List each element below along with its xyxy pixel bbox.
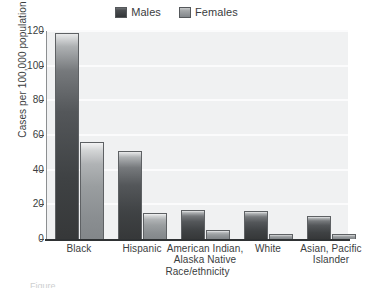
y-axis-tick-mark [40, 204, 44, 205]
bar-group-container [47, 31, 348, 239]
x-axis-line [45, 239, 350, 241]
plot-area [47, 31, 348, 239]
x-axis-tick-label-line: Alaska Native [166, 254, 244, 265]
x-axis-title: Race/ethnicity [47, 266, 348, 277]
legend-label-males: Males [131, 6, 161, 18]
x-axis-tick-label: Asian, PacificIslander [292, 243, 366, 265]
cropped-caption-remnant: Figure [30, 281, 76, 288]
y-axis-tick-mark [40, 31, 44, 32]
chart-legend: Males Females [0, 4, 353, 20]
y-axis-tick-mark [40, 66, 44, 67]
x-axis-tick-label-line: Islander [292, 254, 366, 265]
legend-item-males: Males [115, 6, 161, 18]
bar-males [181, 210, 205, 239]
bar-females [143, 213, 167, 239]
y-axis-tick-mark [40, 100, 44, 101]
x-axis-tick-label-line: Asian, Pacific [292, 243, 366, 254]
bar-males [118, 151, 142, 239]
bar-males [244, 211, 268, 239]
legend-item-females: Females [179, 6, 238, 18]
legend-swatch-females-icon [179, 7, 191, 18]
legend-label-females: Females [195, 6, 238, 18]
legend-swatch-males-icon [115, 7, 127, 18]
y-axis-tick-mark [40, 170, 44, 171]
y-axis-tick-mark [40, 135, 44, 136]
bar-females [206, 230, 230, 239]
y-axis-line [46, 31, 47, 239]
bar-males [307, 216, 331, 239]
y-axis-tick-mark [40, 239, 44, 240]
bar-males [55, 33, 79, 239]
bar-females [80, 142, 104, 239]
